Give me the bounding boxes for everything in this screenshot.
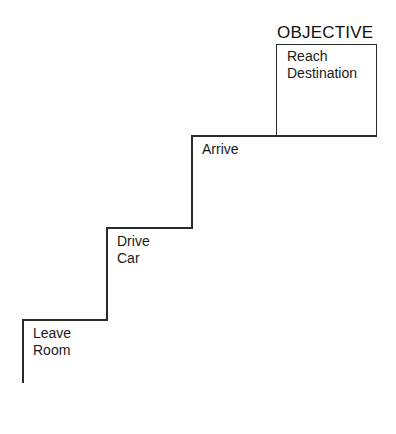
- step-2-tread: [106, 227, 193, 229]
- step-1-label-line2: Room: [33, 342, 71, 359]
- step-1-label-line1: Leave: [33, 325, 71, 342]
- objective-label: Reach Destination: [287, 48, 357, 82]
- step-3-riser: [191, 135, 193, 229]
- step-1-riser: [22, 319, 24, 383]
- step-3-label: Arrive: [202, 141, 239, 158]
- objective-label-line2: Destination: [287, 65, 357, 82]
- objective-label-line1: Reach: [287, 48, 357, 65]
- step-2-label-line2: Car: [117, 250, 150, 267]
- step-2-riser: [106, 227, 108, 321]
- step-1-tread: [22, 319, 108, 321]
- step-2-label: Drive Car: [117, 233, 150, 267]
- step-1-label: Leave Room: [33, 325, 71, 359]
- objective-title: OBJECTIVE: [277, 23, 373, 43]
- step-3-label-line1: Arrive: [202, 141, 239, 158]
- step-2-label-line1: Drive: [117, 233, 150, 250]
